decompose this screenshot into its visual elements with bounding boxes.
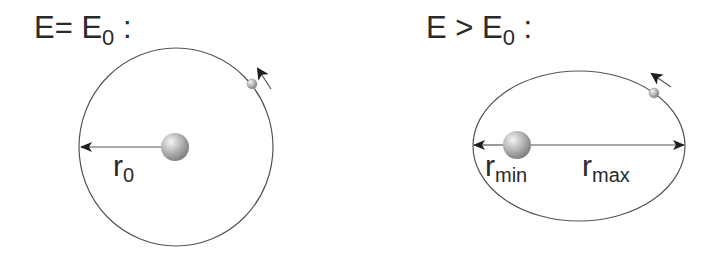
panel-title-elliptical: E > E0 : — [426, 10, 532, 50]
central-body-ball — [503, 131, 531, 159]
motion-direction-arrow-icon — [652, 74, 671, 87]
orbiting-body-ball — [247, 79, 257, 89]
label-rmax: rmax — [582, 149, 630, 186]
orbiting-body-ball — [649, 88, 659, 98]
motion-direction-arrow-icon — [258, 69, 271, 89]
central-body-ball — [161, 133, 189, 161]
orbit-diagram: E= E0 : r0 E > E0 : rmin rmax — [0, 0, 718, 259]
label-r0: r0 — [113, 149, 134, 186]
panel-title-circular: E= E0 : — [34, 10, 132, 50]
panel-elliptical-orbit: E > E0 : rmin rmax — [426, 10, 685, 221]
panel-circular-orbit: E= E0 : r0 — [34, 10, 273, 246]
